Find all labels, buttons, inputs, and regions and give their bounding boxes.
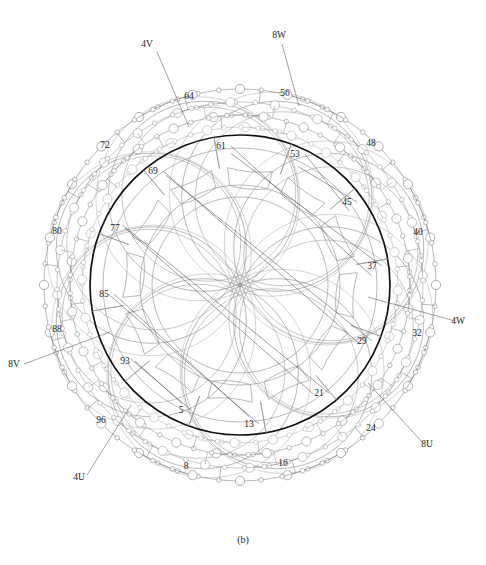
conductor-dot (408, 274, 413, 279)
conductor-node (431, 280, 440, 289)
coil-jumper (355, 427, 363, 437)
conductor-node (403, 179, 412, 188)
chain-arc (356, 177, 398, 336)
conductor-dot (246, 453, 251, 458)
coil-jumper (378, 203, 389, 209)
conductor-node (335, 143, 344, 152)
conductor-node (373, 380, 382, 389)
coil-number-label: 8 (184, 461, 189, 471)
slot-number-label: 45 (342, 197, 352, 207)
conductor-dot (54, 215, 59, 220)
conductor-node (226, 98, 235, 107)
slot-number-label: 29 (357, 336, 367, 346)
conductor-dot (206, 116, 211, 121)
conductor-dot (361, 435, 366, 440)
coil-jumper (221, 116, 222, 128)
conductor-node (392, 214, 401, 223)
terminal-label: 8U (421, 439, 433, 449)
conductor-node (287, 131, 296, 140)
coil-number-label: 32 (412, 328, 422, 338)
conductor-node (393, 344, 402, 353)
conductor-dot (85, 406, 90, 411)
conductor-dot (125, 156, 130, 161)
conductor-dot (416, 200, 421, 205)
terminal-label: 4U (73, 472, 85, 482)
conductor-dot (55, 267, 60, 272)
conductor-node (426, 328, 435, 337)
conductor-dot (423, 220, 428, 225)
coil-jumper (107, 179, 116, 186)
stator-tooth-ring (140, 185, 340, 385)
conductor-node (172, 438, 181, 447)
slot-label-leader (231, 146, 372, 276)
chain-arc (82, 234, 124, 393)
conductor-dot (209, 450, 214, 455)
conductor-node (401, 358, 410, 367)
conductor-node (39, 280, 48, 289)
conductor-dot (152, 121, 157, 126)
conductor-dot (374, 202, 379, 207)
conductor-dot (394, 305, 399, 310)
conductor-node (321, 148, 330, 157)
conductor-dot (433, 262, 438, 267)
slot-tooth-line (189, 396, 200, 426)
coil-number-label: 48 (366, 138, 376, 148)
slot-number-label: 69 (148, 166, 158, 176)
coil-jumper (71, 303, 83, 304)
slot-tooth-line (92, 305, 124, 311)
conductor-dot (115, 435, 120, 440)
conductor-dot (383, 394, 388, 399)
conductor-dot (60, 365, 65, 370)
conductor-node (79, 347, 88, 356)
conductor-dot (217, 478, 222, 483)
conductor-node (81, 313, 90, 322)
conductor-dot (407, 293, 412, 298)
slot-number-label: 13 (244, 419, 254, 429)
coil-jumper (158, 136, 164, 147)
chain-arc (246, 127, 383, 216)
conductor-dot (391, 322, 396, 327)
stator-core (90, 135, 390, 435)
conductor-dot (127, 428, 132, 433)
conductor-dot (361, 130, 366, 135)
conductor-dot (92, 172, 97, 177)
conductor-dot (422, 350, 427, 355)
conductor-node (259, 112, 268, 121)
conductor-dot (46, 325, 51, 330)
conductor-node (407, 218, 416, 227)
conductor-node (120, 388, 129, 397)
conductor-node (149, 413, 158, 422)
slot-label-leader (135, 361, 182, 404)
conductor-node (268, 435, 277, 444)
conductor-dot (111, 396, 116, 401)
conductor-node (200, 460, 209, 469)
conductor-dot (115, 183, 120, 188)
slot-number-label: 93 (120, 356, 130, 366)
slot-number-label: 5 (179, 405, 184, 415)
coil-number-label: 64 (184, 91, 194, 101)
coil-jumper (117, 133, 125, 143)
stator-slot (228, 168, 273, 190)
conductor-dot (256, 126, 261, 131)
conductor-dot (388, 233, 393, 238)
slot-number-label: 53 (290, 149, 300, 159)
conductor-dot (88, 332, 93, 337)
coil-jumper (338, 152, 345, 161)
conductor-dot (394, 378, 399, 383)
conductor-dot (188, 133, 193, 138)
conductor-dot (68, 291, 73, 296)
conductor-dot (97, 211, 102, 216)
coil-number-label: 16 (278, 458, 288, 468)
conductor-dot (102, 363, 107, 368)
coil-number-label: 96 (96, 415, 106, 425)
conductor-dot (377, 165, 382, 170)
conductor-dot (323, 445, 328, 450)
conductor-dot (215, 439, 220, 444)
conductor-node (403, 254, 412, 263)
conductor-dot (170, 113, 175, 118)
conductor-node (336, 448, 345, 457)
conductor-node (230, 438, 239, 447)
conductor-node (169, 124, 178, 133)
conductor-dot (364, 397, 369, 402)
conductor-node (262, 448, 271, 457)
